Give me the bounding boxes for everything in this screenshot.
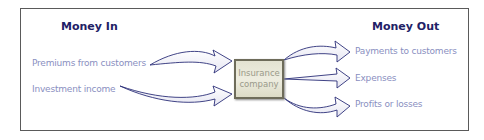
- company-label-line1: Insurance: [238, 68, 280, 79]
- arrow-expenses: [284, 68, 350, 88]
- arrow-investment: [120, 86, 232, 106]
- company-label-line2: company: [239, 79, 278, 90]
- arrow-premiums: [150, 50, 232, 73]
- insurance-company-box: Insurance company: [234, 59, 284, 99]
- arrow-payments: [284, 41, 350, 62]
- arrow-profits: [284, 97, 350, 117]
